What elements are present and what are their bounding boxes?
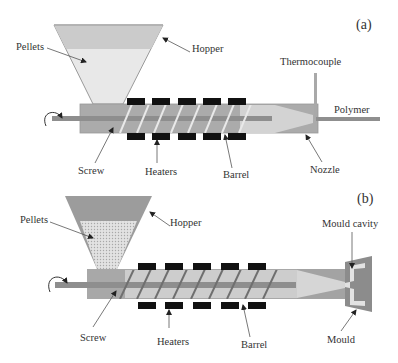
panel-b-label: (b) xyxy=(357,191,374,207)
label-pellets-a: Pellets xyxy=(16,41,44,52)
label-heaters-a: Heaters xyxy=(145,166,177,177)
thermocouple-probe xyxy=(314,73,317,119)
label-mould: Mould xyxy=(327,334,356,345)
label-screw-a: Screw xyxy=(78,165,105,176)
label-barrel-a: Barrel xyxy=(223,169,249,180)
label-thermocouple: Thermocouple xyxy=(280,56,342,67)
mould xyxy=(345,256,372,312)
extrusion-injection-diagram: (a) xyxy=(0,0,398,363)
label-nozzle: Nozzle xyxy=(310,164,340,175)
diagram-canvas: (a) xyxy=(0,0,398,363)
label-polymer: Polymer xyxy=(334,104,370,115)
label-pellets-b: Pellets xyxy=(20,214,48,225)
panel-b: (b) xyxy=(20,191,379,350)
nozzle-b xyxy=(297,269,345,299)
label-heaters-b: Heaters xyxy=(157,336,189,347)
hopper-a xyxy=(54,25,163,104)
label-hopper-b: Hopper xyxy=(170,217,202,228)
panel-a: (a) xyxy=(16,17,380,180)
label-barrel-b: Barrel xyxy=(241,339,267,350)
polymer-extrudate xyxy=(316,117,380,121)
screw-shaft-a xyxy=(52,116,272,121)
panel-a-label: (a) xyxy=(356,17,372,33)
label-mould-cavity: Mould cavity xyxy=(322,218,379,229)
label-screw-b: Screw xyxy=(80,332,107,343)
label-hopper-a: Hopper xyxy=(192,43,224,54)
screw-shaft-b xyxy=(55,282,296,288)
